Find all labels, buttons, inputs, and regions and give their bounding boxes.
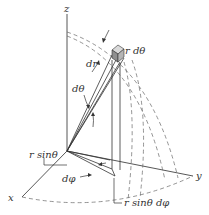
r-dtheta-label: r dθ bbox=[125, 45, 145, 56]
volume-element-cube bbox=[112, 45, 124, 62]
ray-2 bbox=[67, 60, 116, 151]
floor-ray-3 bbox=[67, 151, 110, 160]
r-sin-theta-label: r sinθ bbox=[29, 149, 58, 160]
spherical-volume-element-diagram: z x y dr r dθ dθ r sinθ dφ r sinθ dφ bbox=[0, 0, 209, 215]
z-axis-label: z bbox=[63, 3, 70, 14]
y-axis-label: y bbox=[195, 170, 202, 181]
x-axis-label: x bbox=[8, 192, 14, 203]
floor-ray-1 bbox=[67, 151, 112, 169]
dtheta-arrowhead-bottom bbox=[91, 112, 95, 116]
azimuth-arc-2 bbox=[124, 62, 132, 200]
dtheta-label: dθ bbox=[72, 83, 84, 94]
ray-4 bbox=[67, 58, 124, 151]
ray-1 bbox=[67, 55, 112, 151]
dphi-arrowhead-left bbox=[88, 173, 92, 177]
dtheta-arrow-bottom bbox=[93, 115, 94, 127]
azimuth-arc-1 bbox=[132, 60, 144, 198]
dr-arrow-top bbox=[104, 30, 109, 40]
dphi-label: dφ bbox=[62, 173, 75, 184]
dr-arrowhead-top bbox=[102, 38, 106, 43]
r-sin-theta-dphi-label: r sinθ dφ bbox=[124, 197, 169, 208]
dtheta-arrow-top bbox=[84, 95, 88, 106]
dr-label: dr bbox=[86, 58, 98, 69]
